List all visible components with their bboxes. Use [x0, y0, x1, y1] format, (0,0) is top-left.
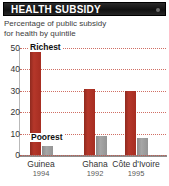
- y-axis-tick-label: 20: [4, 108, 20, 116]
- bar-poorest: [42, 146, 53, 155]
- series-callout-richest: Richest: [29, 43, 62, 52]
- category-name: Côte d'Ivoire: [112, 159, 159, 169]
- category-name: Guinea: [27, 159, 54, 169]
- x-axis-category-label: Côte d'Ivoire1995: [96, 159, 169, 179]
- y-axis-tick-label: 50: [4, 44, 20, 52]
- category-year: 1995: [96, 169, 169, 179]
- y-axis-tick-label: 10: [4, 130, 20, 138]
- y-axis-tick-label: 0: [4, 151, 20, 159]
- bar-richest: [84, 89, 95, 155]
- y-axis-tick-label: 40: [4, 65, 20, 73]
- gridline: [20, 155, 166, 156]
- bar-poorest: [96, 136, 107, 155]
- y-axis-tick-label: 30: [4, 87, 20, 95]
- series-callout-poorest: Poorest: [30, 133, 64, 142]
- bar-chart: Richest Poorest 01020304050Guinea1994Gha…: [0, 0, 169, 186]
- bar-poorest: [137, 138, 148, 155]
- health-subsidy-chart-card: HEALTH SUBSIDY Percentage of public subs…: [0, 0, 169, 186]
- bar-richest: [125, 91, 136, 155]
- gridline: [20, 69, 166, 70]
